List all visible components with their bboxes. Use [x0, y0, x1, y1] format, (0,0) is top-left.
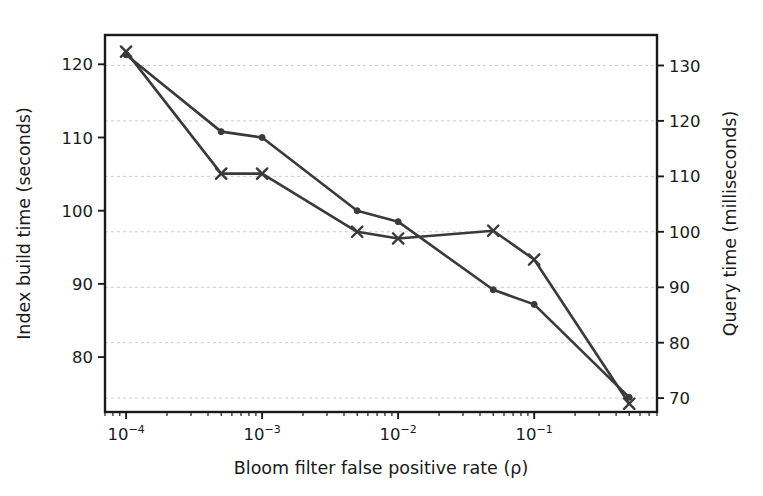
- y-left-tick-label: 120: [62, 55, 94, 74]
- y-right-tick-label: 120: [669, 112, 701, 131]
- x-axis-ticks: 10−410−310−210−1: [105, 412, 657, 444]
- y-right-tick-label: 80: [669, 334, 690, 353]
- y-left-tick-label: 80: [72, 348, 93, 367]
- y-axis-left-ticks: 8090100110120: [62, 55, 106, 367]
- chart-canvas: 10−410−310−210−1 8090100110120 708090100…: [0, 0, 763, 496]
- data-point-marker: [354, 208, 360, 214]
- y-axis-left-title: Index build time (seconds): [14, 107, 34, 340]
- y-left-tick-label: 100: [62, 202, 94, 221]
- y-right-tick-label: 110: [669, 167, 701, 186]
- y-axis-right-title: Query time (milliseconds): [720, 111, 740, 337]
- y-axis-right-ticks: 708090100110120130: [657, 57, 701, 409]
- y-right-tick-label: 100: [669, 223, 701, 242]
- series-line: [126, 52, 629, 404]
- data-series: [121, 46, 635, 408]
- x-axis-title: Bloom filter false positive rate (ρ): [234, 458, 528, 478]
- y-left-tick-label: 90: [72, 275, 93, 294]
- plot-frame: [105, 35, 657, 412]
- y-left-tick-label: 110: [62, 129, 94, 148]
- data-point-marker: [259, 134, 265, 140]
- series-line: [126, 55, 629, 398]
- data-point-marker: [490, 287, 496, 293]
- data-point-marker: [529, 254, 539, 264]
- y-right-tick-label: 70: [669, 389, 690, 408]
- chart-figure: 10−410−310−210−1 8090100110120 708090100…: [0, 0, 763, 496]
- data-point-marker: [218, 129, 224, 135]
- x-tick-label: 10−4: [107, 423, 144, 444]
- x-tick-label: 10−2: [379, 423, 416, 444]
- data-point-marker: [395, 219, 401, 225]
- axis-labels: Bloom filter false positive rate (ρ)Inde…: [14, 107, 740, 478]
- x-tick-label: 10−3: [243, 423, 280, 444]
- y-right-tick-label: 90: [669, 278, 690, 297]
- grid-lines: [105, 66, 657, 399]
- plot-border: [105, 35, 657, 412]
- data-point-marker: [531, 301, 537, 307]
- y-right-tick-label: 130: [669, 57, 701, 76]
- x-tick-label: 10−1: [516, 423, 553, 444]
